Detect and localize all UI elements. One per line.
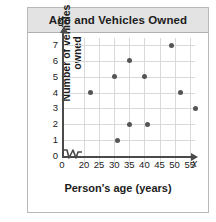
y-axis-arrow-icon <box>60 26 68 33</box>
x-tick-label: 40 <box>139 160 150 170</box>
y-tick-label: 6 <box>53 56 58 66</box>
x-tick-label: 0 <box>59 160 64 170</box>
x-axis-label: Person's age (years) <box>28 182 208 194</box>
x-tick-label: 30 <box>109 160 120 170</box>
gridline-vertical <box>84 38 85 164</box>
y-tick-label: 3 <box>53 104 58 114</box>
gridline-horizontal <box>62 93 195 94</box>
x-tick-label: 55 <box>184 160 195 170</box>
y-axis-variable-name: y <box>58 14 63 24</box>
gridline-horizontal <box>62 140 195 141</box>
x-tick-label: 35 <box>124 160 135 170</box>
gridline-horizontal <box>62 45 195 46</box>
y-tick-label: 2 <box>53 120 58 130</box>
gridline-vertical <box>99 38 100 164</box>
data-point <box>169 43 174 48</box>
x-tick-label: 45 <box>154 160 165 170</box>
y-tick-label: 0 <box>53 151 58 161</box>
x-tick-label: 20 <box>79 160 90 170</box>
data-point <box>193 106 198 111</box>
y-tick-label: 1 <box>53 135 58 145</box>
plot-area: y x 01234567 02025303540455055 <box>62 38 195 164</box>
chart-title: Age and Vehicles Owned <box>49 14 187 26</box>
data-point <box>88 90 93 95</box>
gridline-horizontal <box>62 108 195 109</box>
data-point <box>115 138 120 143</box>
y-axis-line <box>62 32 64 156</box>
y-tick-label: 7 <box>53 40 58 50</box>
data-point <box>127 58 132 63</box>
gridline-vertical <box>160 38 161 164</box>
gridline-vertical <box>190 38 191 164</box>
x-tick-label: 50 <box>169 160 180 170</box>
data-point <box>145 122 150 127</box>
y-tick-label: 4 <box>53 88 58 98</box>
gridline-horizontal <box>62 77 195 78</box>
chart-title-bar: Age and Vehicles Owned <box>28 8 208 33</box>
data-point <box>142 74 147 79</box>
data-point <box>178 90 183 95</box>
data-point <box>127 122 132 127</box>
gridline-vertical <box>114 38 115 164</box>
data-point <box>112 74 117 79</box>
gridline-vertical <box>129 38 130 164</box>
chart-figure: Age and Vehicles Owned Number of vehicle… <box>27 7 209 213</box>
gridline-vertical <box>175 38 176 164</box>
gridline-vertical <box>144 38 145 164</box>
y-tick-label: 5 <box>53 72 58 82</box>
x-tick-label: 25 <box>94 160 105 170</box>
